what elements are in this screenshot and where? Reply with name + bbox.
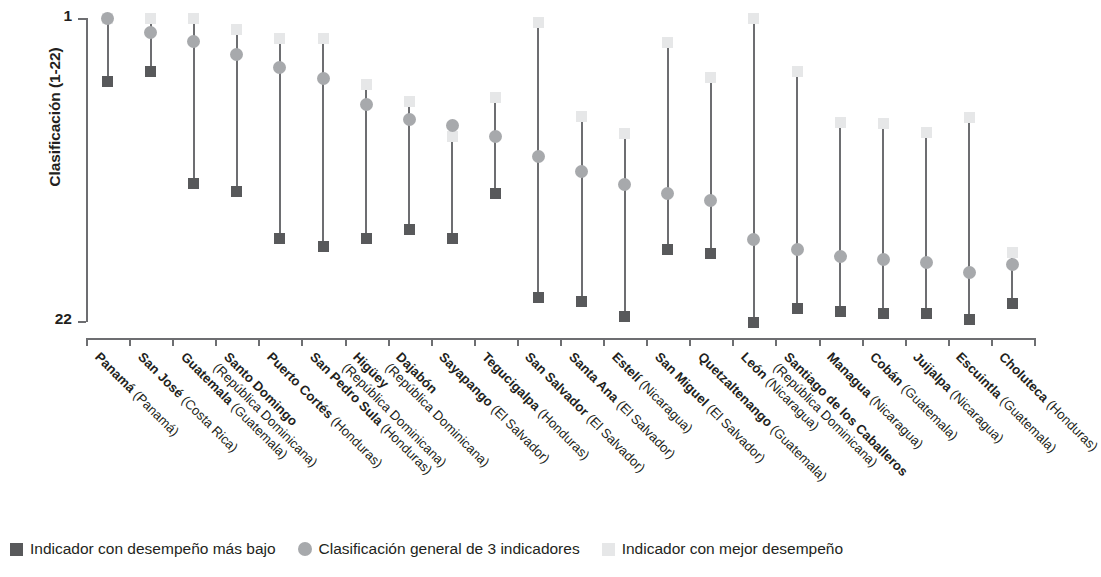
x-axis-tick: [258, 338, 260, 346]
marker-overall-ranking: [575, 165, 588, 178]
marker-lowest-indicator: [705, 248, 716, 259]
legend-label: Indicador con mejor desempeño: [622, 540, 843, 558]
marker-best-indicator: [964, 112, 975, 123]
marker-lowest-indicator: [145, 66, 156, 77]
marker-best-indicator: [490, 92, 501, 103]
marker-lowest-indicator: [274, 233, 285, 244]
marker-best-indicator: [921, 127, 932, 138]
y-axis-tick-bottom: [78, 321, 86, 323]
x-axis-tick: [819, 338, 821, 346]
marker-lowest-indicator: [1007, 298, 1018, 309]
y-axis-tick-label-top: 1: [32, 7, 72, 25]
x-axis-label-city: Quetzaltenango: [695, 349, 778, 432]
marker-overall-ranking: [920, 256, 933, 269]
legend-square-icon: [10, 543, 23, 556]
marker-best-indicator: [533, 17, 544, 28]
plot-area: [86, 18, 1034, 322]
range-stem: [107, 18, 109, 82]
marker-best-indicator: [835, 117, 846, 128]
marker-overall-ranking: [618, 178, 631, 191]
marker-lowest-indicator: [964, 314, 975, 325]
marker-best-indicator: [576, 111, 587, 122]
marker-best-indicator: [878, 118, 889, 129]
marker-overall-ranking: [403, 113, 416, 126]
marker-lowest-indicator: [102, 76, 113, 87]
x-axis-tick: [301, 338, 303, 346]
marker-best-indicator: [619, 128, 630, 139]
range-stem: [667, 43, 669, 250]
x-axis-tick: [862, 338, 864, 346]
x-axis-tick: [388, 338, 390, 346]
marker-lowest-indicator: [490, 188, 501, 199]
x-axis-tick: [646, 338, 648, 346]
legend-item: Clasificación general de 3 indicadores: [298, 540, 580, 558]
marker-overall-ranking: [661, 187, 674, 200]
marker-best-indicator: [318, 33, 329, 44]
range-stem: [494, 98, 496, 194]
marker-best-indicator: [705, 72, 716, 83]
marker-overall-ranking: [834, 250, 847, 263]
x-axis-label-country: (Guatemala): [767, 422, 829, 484]
marker-overall-ranking: [144, 26, 157, 39]
marker-best-indicator: [361, 79, 372, 90]
marker-overall-ranking: [963, 266, 976, 279]
marker-overall-ranking: [489, 130, 502, 143]
y-axis-tick-label-bottom: 22: [32, 310, 72, 328]
x-axis-tick: [775, 338, 777, 346]
marker-lowest-indicator: [318, 241, 329, 252]
range-stem: [710, 77, 712, 254]
marker-best-indicator: [404, 96, 415, 107]
marker-best-indicator: [748, 13, 759, 24]
marker-lowest-indicator: [576, 296, 587, 307]
marker-best-indicator: [1007, 247, 1018, 258]
range-stem: [925, 132, 927, 313]
marker-overall-ranking: [877, 253, 890, 266]
y-axis-tick-top: [78, 18, 86, 20]
x-axis-tick: [215, 338, 217, 346]
legend-square-icon: [602, 543, 615, 556]
marker-overall-ranking: [101, 12, 114, 25]
x-axis-tick: [172, 338, 174, 346]
marker-lowest-indicator: [188, 178, 199, 189]
legend-label: Clasificación general de 3 indicadores: [319, 540, 580, 558]
x-axis-tick: [603, 338, 605, 346]
x-axis-tick: [732, 338, 734, 346]
marker-overall-ranking: [230, 48, 243, 61]
marker-overall-ranking: [532, 150, 545, 163]
x-axis-tick: [560, 338, 562, 346]
marker-overall-ranking: [317, 72, 330, 85]
x-axis-label-city: Panamá: [92, 349, 141, 398]
marker-overall-ranking: [791, 243, 804, 256]
marker-overall-ranking: [273, 61, 286, 74]
x-axis-tick: [1034, 338, 1036, 346]
y-axis-title: Clasificación (1-22): [46, 2, 64, 232]
chart-legend: Indicador con desempeño más bajoClasific…: [10, 540, 1043, 558]
range-stem: [968, 118, 970, 319]
legend-item: Indicador con mejor desempeño: [602, 540, 843, 558]
marker-lowest-indicator: [748, 317, 759, 328]
range-stem: [882, 124, 884, 314]
range-stem: [624, 134, 626, 316]
marker-best-indicator: [231, 24, 242, 35]
legend-circle-icon: [298, 542, 312, 556]
range-stem: [753, 18, 755, 322]
range-stem: [796, 72, 798, 309]
x-axis-tick: [474, 338, 476, 346]
marker-lowest-indicator: [447, 233, 458, 244]
range-stem: [581, 116, 583, 301]
marker-lowest-indicator: [231, 186, 242, 197]
marker-lowest-indicator: [878, 308, 889, 319]
marker-lowest-indicator: [404, 224, 415, 235]
x-axis-tick: [86, 338, 88, 346]
marker-overall-ranking: [704, 194, 717, 207]
marker-best-indicator: [792, 66, 803, 77]
marker-overall-ranking: [187, 35, 200, 48]
marker-overall-ranking: [1006, 258, 1019, 271]
marker-overall-ranking: [360, 98, 373, 111]
x-axis-tick: [517, 338, 519, 346]
marker-lowest-indicator: [533, 292, 544, 303]
marker-lowest-indicator: [921, 308, 932, 319]
legend-item: Indicador con desempeño más bajo: [10, 540, 276, 558]
marker-lowest-indicator: [619, 311, 630, 322]
